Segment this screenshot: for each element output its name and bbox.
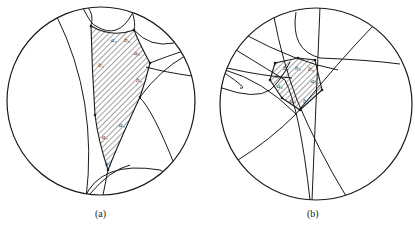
side-label: a₃ [134, 49, 141, 57]
side-label: b₁ [98, 61, 104, 69]
polygon-vertex [269, 79, 272, 82]
polygon-vertex [299, 109, 302, 112]
side-label: b₃ [308, 65, 315, 73]
geodesic-arc [134, 30, 174, 44]
side-label: b₂ [295, 64, 302, 72]
polygon-vertex [139, 96, 142, 99]
geodesic-arc [88, 7, 92, 25]
side-label: b₁ [283, 64, 289, 72]
geodesic-arc [223, 72, 243, 88]
caption-b: (b) [307, 208, 319, 219]
geodesic-arc [146, 67, 192, 76]
geodesic-arc [139, 97, 175, 166]
hyperbolic-tessellation-figure: a₂b₃a₃b₁b₂a₄a₁b₄ b₁b₂b₃a₁a₂a₃a₄b₄ [0, 0, 415, 225]
side-label: a₄ [290, 97, 297, 105]
polygon-vertex [314, 59, 317, 62]
polygon-vertex [90, 25, 93, 28]
geodesic-arc [89, 165, 130, 195]
polygon-vertex [94, 114, 97, 117]
geodesic-arc [295, 12, 400, 64]
polygon-vertex [107, 169, 110, 172]
side-label: a₄ [119, 121, 126, 129]
geodesic-arc [274, 17, 346, 196]
side-label: b₂ [136, 76, 143, 84]
polygon-vertex [274, 62, 277, 65]
polygon-vertex [297, 57, 300, 60]
polygon-vertex [321, 89, 324, 92]
side-label: a₁ [275, 72, 281, 80]
fundamental-polygon [91, 26, 150, 170]
polygon-vertex [281, 97, 284, 100]
side-label: a₃ [311, 77, 318, 85]
side-label: a₁ [102, 133, 108, 141]
geodesic-arc [312, 7, 320, 200]
side-label: b₄ [105, 160, 112, 168]
polygon-vertex [149, 62, 152, 65]
geodesic-arc [57, 17, 89, 199]
side-label: b₄ [303, 97, 310, 105]
caption-a: (a) [95, 208, 106, 219]
side-label: b₃ [124, 36, 131, 44]
poincare-disk-b: b₁b₂b₃a₁a₂a₃a₄b₄ [220, 7, 412, 200]
side-label: a₂ [111, 36, 118, 44]
geodesic-arc [84, 168, 183, 199]
geodesic-arc [132, 11, 135, 30]
side-label: a₂ [277, 82, 284, 90]
poincare-disk-a: a₂b₃a₃b₁b₂a₄a₁b₄ [7, 7, 195, 200]
polygon-vertex [133, 29, 136, 32]
